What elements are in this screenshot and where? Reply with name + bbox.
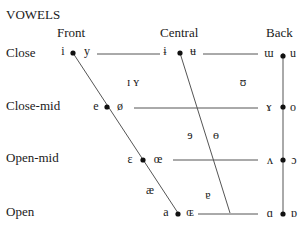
vowel-near-close-back: ʊ xyxy=(240,76,247,88)
vowel-open-back-rounded: ɒ xyxy=(291,207,297,219)
chart-lines xyxy=(0,0,308,231)
vowel-close-mid-front-rounded: ø xyxy=(117,100,123,112)
vowel-open-mid-back-rounded: ɔ xyxy=(291,154,296,166)
vowel-open-mid-back-unrounded: ʌ xyxy=(267,154,273,166)
vowel-close-mid-back-unrounded: ɤ xyxy=(266,101,271,113)
vowel-mid-central-rounded: ɵ xyxy=(213,129,219,141)
vowel-close-central-unrounded: ɨ xyxy=(163,45,166,57)
vowel-near-open-central: ɐ xyxy=(205,189,210,201)
vowel-close-central-rounded: ʉ xyxy=(190,45,196,57)
vowel-open-front-unrounded: a xyxy=(163,206,168,218)
vowel-near-close-front: ɪ ʏ xyxy=(127,76,139,88)
vowel-close-back-rounded: u xyxy=(290,47,296,59)
vowel-close-mid-back-rounded: o xyxy=(290,101,296,113)
vowel-near-open-front: æ xyxy=(146,184,154,196)
vowel-mid-central-unrounded: ɘ xyxy=(187,129,192,141)
vowel-close-front-unrounded: i xyxy=(61,45,64,57)
vowel-close-front-rounded: y xyxy=(84,45,90,57)
vowel-close-mid-front-unrounded: e xyxy=(93,100,98,112)
vowel-open-mid-front-rounded: œ xyxy=(154,153,163,165)
vowel-close-back-unrounded: ɯ xyxy=(264,47,273,59)
vowel-open-back-unrounded: ɑ xyxy=(267,207,273,219)
vowel-open-mid-front-unrounded: ɛ xyxy=(127,153,132,165)
vowel-open-front-rounded: ɶ xyxy=(186,206,194,218)
